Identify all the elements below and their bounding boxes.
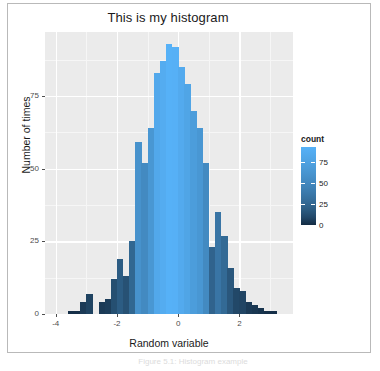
x-axis-label: Random variable <box>45 337 293 349</box>
legend-tick-label: 0 <box>319 221 323 230</box>
figure-caption: Figure 5.1: Histogram example <box>28 357 358 366</box>
legend-tick-mark <box>301 225 305 226</box>
x-tick-mark <box>117 314 118 317</box>
legend-tick-mark <box>311 183 315 184</box>
x-tick-label: 0 <box>163 319 193 328</box>
legend-title: count <box>301 134 364 144</box>
x-tick-label: -4 <box>41 319 71 328</box>
legend-tick-mark <box>311 225 315 226</box>
legend-tick-label: 50 <box>319 179 328 188</box>
y-tick-mark <box>42 96 45 97</box>
legend-tick-mark <box>311 162 315 163</box>
histogram-bar <box>86 294 93 314</box>
legend-tick-mark <box>301 183 305 184</box>
legend: count 0255075 <box>300 134 364 225</box>
figure-frame: This is my histogram 0255075 -4-202 Numb… <box>7 3 371 353</box>
legend-tick-mark <box>301 162 305 163</box>
legend-tick-mark <box>301 204 305 205</box>
y-tick-label: 25 <box>13 236 39 245</box>
histogram-bar <box>270 311 277 314</box>
plot-panel <box>45 32 293 314</box>
chart-title: This is my histogram <box>38 10 298 25</box>
x-tick-label: -2 <box>102 319 132 328</box>
legend-colorbar <box>301 147 316 225</box>
y-tick-mark <box>42 314 45 315</box>
x-tick-mark <box>239 314 240 317</box>
legend-tick-label: 75 <box>319 158 328 167</box>
x-tick-mark <box>56 314 57 317</box>
y-axis-label: Number of times <box>20 35 32 235</box>
histogram-bars <box>45 32 293 314</box>
legend-tick-mark <box>311 204 315 205</box>
y-tick-mark <box>42 169 45 170</box>
y-tick-label: 0 <box>13 309 39 318</box>
x-tick-mark <box>178 314 179 317</box>
y-tick-mark <box>42 241 45 242</box>
legend-body: 0255075 <box>300 147 364 225</box>
legend-tick-label: 25 <box>319 200 328 209</box>
x-tick-label: 2 <box>224 319 254 328</box>
plot-root: This is my histogram 0255075 -4-202 Numb… <box>8 4 370 352</box>
